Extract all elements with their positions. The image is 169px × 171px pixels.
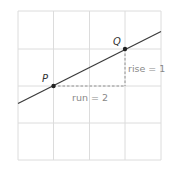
point-q-label: Q: [113, 36, 121, 47]
grid: [18, 11, 161, 160]
run-label: run = 2: [72, 92, 108, 103]
point-q: [123, 47, 127, 51]
rise-label: rise = 1: [128, 63, 165, 74]
point-p-label: P: [42, 73, 49, 84]
slope-diagram: P Q rise = 1 run = 2: [0, 0, 169, 171]
point-p: [51, 84, 55, 88]
